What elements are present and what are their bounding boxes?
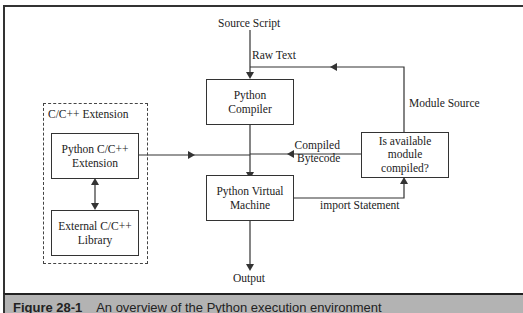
import-statement-label: import Statement — [320, 199, 400, 212]
figure-caption-bar: Figure 28-1 An overview of the Python ex… — [3, 293, 523, 313]
figure-caption-text: An overview of the Python execution envi… — [96, 300, 381, 313]
external-lib-line2: Library — [58, 233, 131, 247]
extension-group-label: C/C++ Extension — [48, 108, 128, 121]
import-statement-line — [293, 184, 404, 198]
decision-line2: module — [379, 148, 432, 162]
python-compiler-box: Python Compiler — [206, 79, 294, 125]
decision-line1: Is available — [379, 135, 432, 149]
source-script-label: Source Script — [218, 17, 280, 30]
decision-line3: compiled? — [379, 162, 432, 176]
python-ext-line1: Python C/C++ — [62, 142, 129, 156]
raw-text-label: Raw Text — [252, 49, 296, 62]
python-compiler-line1: Python — [228, 88, 271, 102]
python-vm-line1: Python Virtual — [216, 184, 283, 198]
arrowhead-icon — [287, 150, 294, 158]
figure-caption: Figure 28-1 An overview of the Python ex… — [13, 300, 382, 313]
python-vm-box: Python Virtual Machine — [206, 175, 294, 221]
arrowhead-icon — [188, 151, 195, 159]
figure-label: Figure 28-1 — [13, 300, 82, 313]
compiled-label-line1: Compiled — [294, 139, 340, 152]
arrowhead-icon — [400, 177, 408, 184]
python-vm-line2: Machine — [216, 198, 283, 212]
module-source-label: Module Source — [409, 97, 480, 110]
arrowhead-icon — [330, 63, 337, 71]
python-compiler-line2: Compiler — [228, 102, 271, 116]
decision-box: Is available module compiled? — [361, 132, 449, 178]
external-library-box: External C/C++ Library — [51, 210, 139, 256]
arrowhead-icon — [246, 264, 254, 271]
arrowhead-icon — [246, 72, 254, 79]
compiled-label-line2: Bytecode — [294, 152, 340, 165]
python-ext-line2: Extension — [62, 156, 129, 170]
compiled-bytecode-label: Compiled Bytecode — [294, 139, 340, 165]
external-lib-line1: External C/C++ — [58, 219, 131, 233]
output-label: Output — [233, 272, 265, 285]
python-extension-box: Python C/C++ Extension — [51, 133, 139, 179]
